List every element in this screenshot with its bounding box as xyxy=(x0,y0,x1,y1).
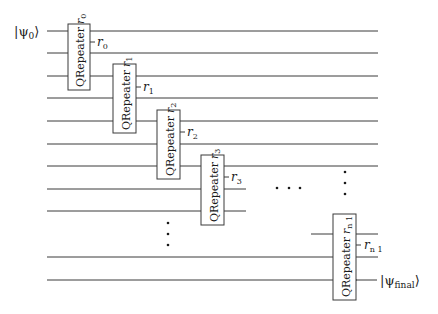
svg-text:rn 1: rn 1 xyxy=(364,238,383,254)
svg-text:QRepeaterr3: QRepeaterr3 xyxy=(208,149,222,222)
output-state-label: |ψfinal⟩ xyxy=(356,270,420,290)
ellipsis-vertical-right xyxy=(344,171,347,196)
gate-qrepeater-r1: QRepeaterr1 r1 xyxy=(113,57,154,133)
svg-text:QRepeaterr1: QRepeaterr1 xyxy=(120,57,134,130)
svg-text:r2: r2 xyxy=(187,125,198,141)
svg-text:|ψfinal⟩: |ψfinal⟩ xyxy=(380,273,420,290)
ellipsis-horizontal xyxy=(276,187,302,190)
ellipsis-vertical-left xyxy=(167,222,170,247)
gate-qrepeater-r2: QRepeaterr2 r2 xyxy=(157,103,198,179)
svg-text:r3: r3 xyxy=(231,170,242,186)
quantum-circuit-diagram: |ψ0⟩ QRepeaterr0 r0 QRepeaterr1 r1 xyxy=(0,0,438,314)
gate-qrepeater-r0: QRepeaterr0 r0 xyxy=(68,14,108,90)
svg-text:QRepeaterr2: QRepeaterr2 xyxy=(164,103,178,176)
svg-text:r1: r1 xyxy=(143,80,154,96)
svg-text:QRepeaterr0: QRepeaterr0 xyxy=(74,14,88,87)
svg-text:|ψ0⟩: |ψ0⟩ xyxy=(14,24,39,41)
svg-text:r0: r0 xyxy=(97,35,108,51)
gate-qrepeater-r3: QRepeaterr3 r3 xyxy=(201,149,242,225)
input-state-label: |ψ0⟩ xyxy=(14,24,39,41)
